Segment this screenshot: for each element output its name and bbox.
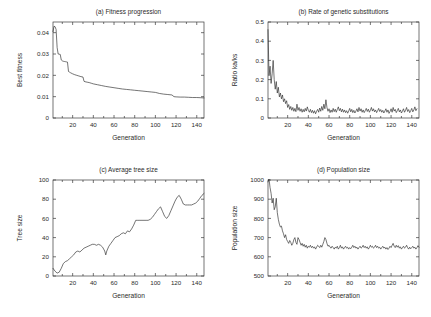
y-tick-label: 0.03 bbox=[37, 50, 50, 57]
y-tick-label: 500 bbox=[254, 272, 265, 279]
x-tick-label: 60 bbox=[326, 121, 333, 128]
x-tick-label: 140 bbox=[407, 121, 418, 128]
y-axis-label: Best fitness bbox=[16, 52, 23, 87]
x-tick-label: 40 bbox=[305, 121, 312, 128]
y-tick-label: 0.4 bbox=[255, 37, 264, 44]
x-tick-label: 80 bbox=[131, 121, 138, 128]
data-series-c bbox=[53, 193, 204, 273]
y-tick-label: 900 bbox=[254, 195, 265, 202]
y-tick-label: 600 bbox=[254, 253, 265, 260]
y-tick-label: 0.1 bbox=[255, 95, 264, 102]
x-axis-label: Generation bbox=[327, 134, 360, 141]
plot-b: (b) Rate of genetic substitutions2040608… bbox=[215, 0, 430, 158]
x-tick-label: 20 bbox=[284, 279, 291, 286]
x-tick-label: 20 bbox=[284, 121, 291, 128]
figure-container: (a) Fitness progression20406080100120140… bbox=[0, 0, 431, 317]
axes-frame bbox=[268, 22, 419, 118]
x-tick-label: 40 bbox=[90, 279, 97, 286]
y-tick-label: 60 bbox=[42, 215, 49, 222]
x-tick-label: 80 bbox=[346, 121, 353, 128]
x-tick-label: 60 bbox=[111, 121, 118, 128]
x-tick-label: 20 bbox=[69, 121, 76, 128]
y-tick-label: 80 bbox=[42, 195, 49, 202]
axes-frame bbox=[53, 22, 204, 118]
y-tick-label: 0.02 bbox=[37, 72, 50, 79]
x-tick-label: 80 bbox=[346, 279, 353, 286]
x-tick-label: 140 bbox=[192, 121, 203, 128]
data-series-d bbox=[268, 179, 419, 249]
data-series-b bbox=[268, 30, 417, 114]
plot-title: (b) Rate of genetic substitutions bbox=[299, 8, 389, 16]
y-axis-label: Ratio ka/ks bbox=[231, 53, 238, 86]
axes-frame bbox=[268, 180, 419, 276]
subplot-a: (a) Fitness progression20406080100120140… bbox=[0, 0, 215, 158]
y-tick-label: 0 bbox=[261, 114, 265, 121]
plot-title: (c) Average tree size bbox=[99, 166, 158, 174]
x-tick-label: 120 bbox=[171, 279, 182, 286]
y-tick-label: 20 bbox=[42, 253, 49, 260]
x-tick-label: 140 bbox=[407, 279, 418, 286]
y-tick-label: 700 bbox=[254, 234, 265, 241]
x-tick-label: 20 bbox=[69, 279, 76, 286]
y-tick-label: 0.01 bbox=[37, 93, 50, 100]
x-axis-label: Generation bbox=[112, 134, 145, 141]
x-tick-label: 120 bbox=[386, 121, 397, 128]
y-tick-label: 1000 bbox=[250, 176, 264, 183]
plot-d: (d) Population size204060801001201405006… bbox=[215, 158, 430, 316]
y-tick-label: 0.5 bbox=[255, 18, 264, 25]
x-tick-label: 60 bbox=[326, 279, 333, 286]
y-tick-label: 0.3 bbox=[255, 57, 264, 64]
x-tick-label: 140 bbox=[192, 279, 203, 286]
x-tick-label: 120 bbox=[171, 121, 182, 128]
subplot-b: (b) Rate of genetic substitutions2040608… bbox=[215, 0, 430, 158]
y-tick-label: 40 bbox=[42, 234, 49, 241]
x-tick-label: 40 bbox=[305, 279, 312, 286]
x-tick-label: 100 bbox=[150, 121, 161, 128]
y-tick-label: 100 bbox=[39, 176, 50, 183]
y-tick-label: 800 bbox=[254, 215, 265, 222]
x-tick-label: 100 bbox=[365, 279, 376, 286]
y-axis-label: Tree size bbox=[16, 214, 23, 241]
x-tick-label: 60 bbox=[111, 279, 118, 286]
plot-title: (d) Population size bbox=[317, 166, 370, 174]
x-tick-label: 100 bbox=[365, 121, 376, 128]
x-tick-label: 100 bbox=[150, 279, 161, 286]
y-tick-label: 0.2 bbox=[255, 76, 264, 83]
x-axis-label: Generation bbox=[112, 292, 145, 299]
y-axis-label: Population size bbox=[231, 205, 239, 250]
x-tick-label: 80 bbox=[131, 279, 138, 286]
subplot-d: (d) Population size204060801001201405006… bbox=[215, 158, 430, 316]
plot-a: (a) Fitness progression20406080100120140… bbox=[0, 0, 215, 158]
plot-c: (c) Average tree size2040608010012014002… bbox=[0, 158, 215, 316]
y-tick-label: 0 bbox=[46, 114, 50, 121]
y-tick-label: 0 bbox=[46, 272, 50, 279]
plot-title: (a) Fitness progression bbox=[96, 8, 162, 16]
y-tick-label: 0.04 bbox=[37, 29, 50, 36]
x-axis-label: Generation bbox=[327, 292, 360, 299]
subplot-c: (c) Average tree size2040608010012014002… bbox=[0, 158, 215, 316]
x-tick-label: 40 bbox=[90, 121, 97, 128]
x-tick-label: 120 bbox=[386, 279, 397, 286]
axes-frame bbox=[53, 180, 204, 276]
data-series-a bbox=[53, 26, 204, 98]
